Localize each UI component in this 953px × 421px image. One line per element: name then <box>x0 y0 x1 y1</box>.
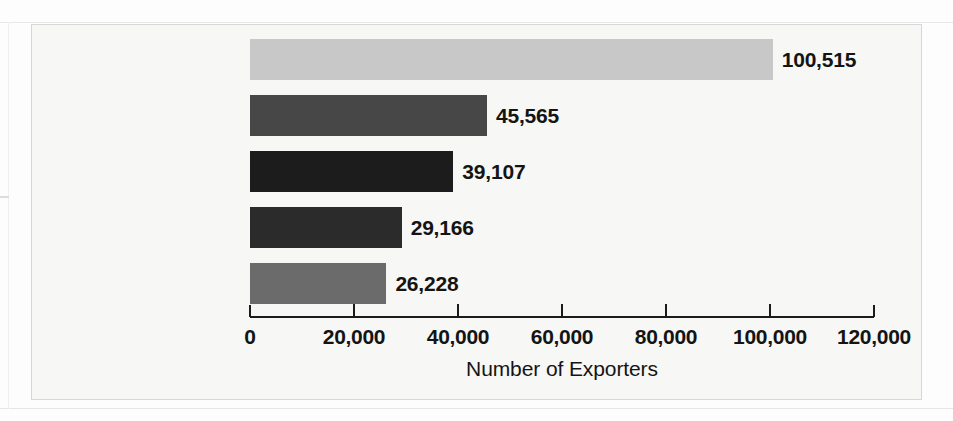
x-axis-tick-label: 80,000 <box>635 325 697 349</box>
x-axis-tick-label: 120,000 <box>837 325 911 349</box>
bar <box>250 95 487 136</box>
x-axis-tick-label: 60,000 <box>531 325 593 349</box>
bar-value-label: 45,565 <box>496 95 559 136</box>
x-axis-tick-label: 100,000 <box>733 325 807 349</box>
scan-edge-bottom-line <box>0 408 953 409</box>
bar-value-label: 29,166 <box>411 207 474 248</box>
x-axis-tick-label: 20,000 <box>323 325 385 349</box>
scanned-page: Canada100,515Mexico45,565United Kingdom3… <box>0 0 953 421</box>
x-axis-tick-label: 40,000 <box>427 325 489 349</box>
bar-value-label: 100,515 <box>782 39 857 80</box>
bar <box>250 39 773 80</box>
bar <box>250 151 453 192</box>
bar <box>250 207 402 248</box>
scan-edge-left-line <box>8 22 9 409</box>
x-axis-end-cap <box>249 305 251 317</box>
bar-value-label: 26,228 <box>395 263 458 304</box>
scan-margin-tick <box>0 196 9 198</box>
scan-edge-top-line <box>0 22 953 23</box>
x-axis-tick-label: 0 <box>244 325 255 349</box>
x-axis-title: Number of Exporters <box>250 357 874 381</box>
bar <box>250 263 386 304</box>
x-axis-tick <box>769 304 771 317</box>
bar-value-label: 39,107 <box>462 151 525 192</box>
x-axis-tick <box>665 304 667 317</box>
x-axis-tick <box>457 304 459 317</box>
x-axis-end-cap <box>873 305 875 317</box>
figure-panel: Canada100,515Mexico45,565United Kingdom3… <box>31 24 922 400</box>
x-axis-tick <box>561 304 563 317</box>
x-axis-tick <box>353 304 355 317</box>
bar-chart-plot-area: Canada100,515Mexico45,565United Kingdom3… <box>32 25 921 399</box>
